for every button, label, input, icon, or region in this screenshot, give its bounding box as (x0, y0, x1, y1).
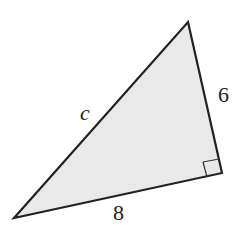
triangle-shape (14, 22, 222, 218)
triangle-figure (0, 0, 244, 230)
triangle-diagram: c 6 8 (0, 0, 244, 230)
bottom-leg-label: 8 (113, 202, 124, 224)
right-leg-label: 6 (218, 84, 229, 106)
hypotenuse-label: c (80, 102, 90, 124)
